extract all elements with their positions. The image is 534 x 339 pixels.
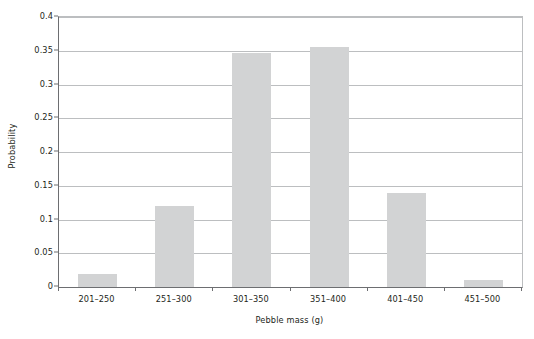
gridline [59,85,522,86]
bar [387,193,426,288]
y-axis-tick-labels: 00.050.10.150.20.250.30.350.4 [24,0,58,292]
x-axis-tick-mark [367,287,368,291]
bar [464,280,503,287]
bar [310,47,349,287]
gridline [59,186,522,187]
bar [232,53,271,287]
x-axis-tick-label: 401–450 [387,294,423,304]
x-axis-tick-mark [521,287,522,291]
x-axis-tick-label: 301–350 [233,294,269,304]
y-axis-title-label: Probability [7,124,17,169]
x-axis-tick-label: 251–300 [156,294,192,304]
bar [155,206,194,287]
x-axis: 201–250251–300301–350351–400401–450451–5… [58,287,523,317]
bar [78,274,117,288]
x-axis-tick-mark [444,287,445,291]
x-axis-tick-mark [135,287,136,291]
y-axis-tick-label: 0 [48,281,53,291]
x-axis-tick-mark [212,287,213,291]
bar-chart-figure: Probability 00.050.10.150.20.250.30.350.… [0,0,534,339]
y-axis-tick-label: 0.05 [34,247,53,257]
x-axis-tick-label: 201–250 [79,294,115,304]
gridline [59,253,522,254]
x-axis-tick-label: 451–500 [464,294,500,304]
y-axis-tick-label: 0.25 [34,112,53,122]
y-axis-tick-label: 0.4 [40,11,53,21]
y-axis-tick-label: 0.2 [40,146,53,156]
gridline [59,51,522,52]
gridline [59,17,522,18]
x-axis-title: Pebble mass (g) [58,315,521,325]
gridline [59,118,522,119]
y-axis-tick-label: 0.15 [34,180,53,190]
x-axis-tick-label: 351–400 [310,294,346,304]
plot-area [58,16,523,288]
gridline [59,152,522,153]
x-axis-tick-mark [290,287,291,291]
y-axis-title: Probability [0,0,24,292]
y-axis-tick-label: 0.1 [40,214,53,224]
x-axis-tick-mark [58,287,59,291]
y-axis-tick-label: 0.35 [34,45,53,55]
gridline [59,220,522,221]
y-axis-tick-label: 0.3 [40,79,53,89]
